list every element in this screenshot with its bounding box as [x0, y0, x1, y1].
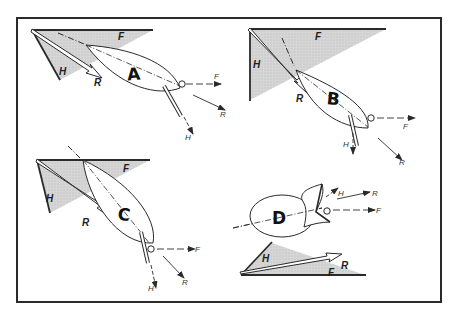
centerline-c-ext [68, 146, 80, 158]
vector-label-f: F [214, 72, 220, 81]
label-f: F [315, 31, 322, 42]
pivot-icon [148, 246, 154, 252]
label-f: F [118, 31, 125, 42]
pivot-icon [179, 81, 185, 87]
vector-label-f: F [403, 122, 409, 131]
pivot-icon [324, 208, 330, 214]
vector-r-c [163, 256, 184, 278]
label-h: H [262, 253, 270, 264]
label-h: H [253, 59, 261, 70]
label-h: H [46, 193, 54, 204]
vector-label-h: H [185, 133, 191, 142]
label-f: F [328, 267, 335, 278]
label-h: H [59, 66, 67, 77]
label-r: R [296, 93, 304, 104]
diagram-canvas: F H R A F R H F H R [0, 0, 459, 316]
vector-label-r: R [372, 189, 378, 198]
label-f: F [123, 163, 130, 174]
label-r: R [341, 260, 349, 271]
label-r: R [82, 217, 90, 228]
vector-label-r: R [182, 278, 188, 287]
panel-c: F H R C F R H [36, 146, 201, 293]
label-r: R [94, 77, 102, 88]
vector-r-b [378, 138, 402, 160]
sail-force-figure: F H R A F R H F H R [0, 0, 459, 316]
vector-label-r: R [399, 158, 405, 167]
panel-a: F H R A F R H [31, 29, 226, 142]
force-triangle-d: H R F [240, 242, 366, 278]
vector-r-a [193, 95, 225, 110]
panel-b: F H R B F R H [248, 28, 415, 167]
vector-label-r: R [220, 110, 226, 119]
boat-label-b: B [326, 88, 341, 109]
boat-label-a: A [126, 64, 141, 85]
vector-label-h: H [338, 189, 344, 198]
panel-d: D H R F H R F [233, 184, 382, 278]
vector-h-d [326, 188, 338, 197]
vector-label-f: F [195, 245, 201, 254]
vector-label-h: H [148, 284, 154, 293]
vector-label-f: F [376, 206, 382, 215]
pivot-icon [368, 115, 374, 121]
boat-label-d: D [272, 208, 286, 228]
vector-h-a [184, 117, 193, 134]
vector-label-h: H [343, 140, 349, 149]
